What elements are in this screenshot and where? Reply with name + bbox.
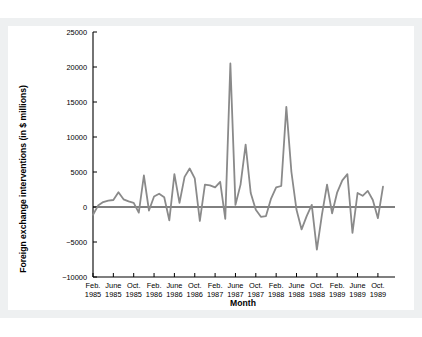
- x-tick-label-year: 1989: [329, 290, 345, 299]
- x-tick-label-month: Oct.: [127, 281, 141, 290]
- x-tick-label-month: June: [350, 281, 366, 290]
- x-tick-label-year: 1987: [207, 290, 223, 299]
- x-tick-label-month: June: [166, 281, 182, 290]
- x-tick-label-month: Feb.: [86, 281, 101, 290]
- x-axis-title: Month: [230, 298, 256, 308]
- x-tick-label-month: Feb.: [269, 281, 284, 290]
- x-tick-label-year: 1985: [125, 290, 141, 299]
- x-tick-label-month: Oct.: [188, 281, 202, 290]
- x-tick-label-year: 1985: [105, 290, 121, 299]
- y-tick-label: 10000: [66, 133, 87, 142]
- x-tick-label-year: 1989: [370, 290, 386, 299]
- x-tick-label-month: Feb.: [330, 281, 345, 290]
- data-series-line: [93, 64, 383, 250]
- x-tick-label-year: 1986: [187, 290, 203, 299]
- y-tick-label: 5000: [71, 168, 87, 177]
- y-axis-title: Foreign exchange interventions (in $ mil…: [18, 85, 28, 273]
- x-tick-label-month: Feb.: [208, 281, 223, 290]
- x-tick-label-year: 1985: [85, 290, 101, 299]
- x-axis: Feb.1985June1985Oct.1985Feb.1986June1986…: [85, 273, 395, 299]
- x-tick-label-month: June: [227, 281, 243, 290]
- x-tick-label-year: 1988: [288, 290, 304, 299]
- chart-canvas: −10000−50000500010000150002000025000 Feb…: [0, 18, 422, 318]
- y-tick-label: 15000: [66, 98, 87, 107]
- y-tick-label: 20000: [66, 63, 87, 72]
- line-chart: −10000−50000500010000150002000025000 Feb…: [0, 18, 422, 318]
- x-tick-label-month: June: [105, 281, 121, 290]
- x-tick-label-year: 1988: [268, 290, 284, 299]
- x-tick-label-year: 1988: [309, 290, 325, 299]
- x-tick-label-month: Oct.: [310, 281, 324, 290]
- y-tick-label: −5000: [66, 238, 87, 247]
- x-tick-label-month: Oct.: [371, 281, 385, 290]
- x-tick-label-month: Feb.: [147, 281, 162, 290]
- x-tick-label-year: 1986: [146, 290, 162, 299]
- y-tick-label: 25000: [66, 28, 87, 37]
- x-tick-label-month: June: [288, 281, 304, 290]
- y-tick-label: −10000: [62, 273, 87, 282]
- y-axis: −10000−50000500010000150002000025000: [62, 28, 97, 282]
- series-polyline: [93, 64, 383, 250]
- x-tick-label-year: 1986: [166, 290, 182, 299]
- y-tick-label: 0: [83, 203, 87, 212]
- x-tick-label-year: 1989: [349, 290, 365, 299]
- x-tick-label-month: Oct.: [249, 281, 263, 290]
